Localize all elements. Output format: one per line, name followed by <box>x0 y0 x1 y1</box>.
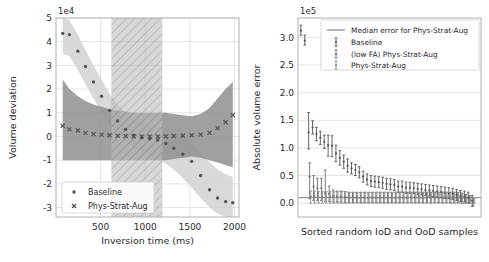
chart-graphic <box>339 157 341 159</box>
left-point-baseline <box>100 94 103 97</box>
chart-graphic <box>341 196 343 198</box>
chart-graphic <box>413 187 415 189</box>
chart-graphic <box>347 164 349 166</box>
right-ytick-label: 1.5 <box>280 115 294 125</box>
chart-graphic <box>362 176 364 178</box>
left-ytick-label: 3 <box>46 61 52 71</box>
chart-graphic <box>316 187 318 189</box>
right-ytick-label: 3.0 <box>280 33 295 43</box>
chart-graphic <box>374 181 376 183</box>
chart-graphic <box>335 41 337 43</box>
chart-graphic <box>310 195 312 197</box>
chart-graphic <box>329 196 331 198</box>
left-point-baseline <box>224 200 227 203</box>
left-chart-panel: -3-2-10123455001000150020001e4Inversion … <box>0 0 246 262</box>
chart-graphic <box>405 187 407 189</box>
chart-graphic <box>420 188 422 190</box>
chart-graphic <box>335 53 337 55</box>
chart-graphic <box>387 197 389 199</box>
chart-graphic <box>335 64 337 66</box>
chart-graphic <box>389 183 391 185</box>
chart-graphic <box>376 197 378 199</box>
chart-graphic <box>424 189 426 191</box>
left-ytick-label: -1 <box>43 155 52 165</box>
chart-graphic <box>368 197 370 199</box>
right-legend-label-3: Phys-Strat-Aug <box>351 61 406 70</box>
right-ytick-label: 0.0 <box>280 198 295 208</box>
chart-graphic <box>321 196 323 198</box>
left-point-baseline <box>199 174 202 177</box>
right-chart-svg: 0.00.51.01.52.02.53.01e5Sorted random Io… <box>246 0 489 262</box>
right-y-exponent: 1e5 <box>300 6 316 16</box>
left-point-baseline <box>156 138 159 141</box>
left-point-baseline <box>92 80 95 83</box>
left-point-baseline <box>181 153 184 156</box>
right-chart-panel: 0.00.51.01.52.02.53.01e5Sorted random Io… <box>246 0 489 262</box>
left-xtick-label: 500 <box>92 222 109 232</box>
right-ytick-label: 0.5 <box>280 171 294 181</box>
chart-graphic <box>312 185 314 187</box>
chart-graphic <box>313 195 315 197</box>
chart-graphic <box>372 197 374 199</box>
chart-graphic <box>319 137 321 139</box>
chart-graphic <box>333 196 335 198</box>
chart-graphic <box>300 30 302 32</box>
chart-graphic <box>465 198 467 200</box>
chart-graphic <box>370 180 372 182</box>
chart-graphic <box>337 196 339 198</box>
left-ytick-label: -3 <box>43 203 52 213</box>
chart-graphic <box>454 197 456 199</box>
chart-graphic <box>304 40 306 42</box>
chart-graphic <box>320 187 322 189</box>
chart-graphic <box>366 178 368 180</box>
right-ytick-label: 2.5 <box>280 60 294 70</box>
left-ytick-label: 0 <box>46 132 52 142</box>
left-point-baseline <box>76 49 79 52</box>
chart-graphic <box>430 197 432 199</box>
chart-graphic <box>358 171 360 173</box>
chart-graphic <box>450 197 452 199</box>
chart-graphic <box>352 197 354 199</box>
chart-graphic <box>385 183 387 185</box>
chart-graphic <box>401 185 403 187</box>
left-ytick-label: 4 <box>46 37 52 47</box>
left-point-baseline <box>61 32 64 35</box>
left-legend-label-phys-strat-aug: Phys-Strat-Aug <box>88 202 148 211</box>
chart-graphic <box>327 144 329 146</box>
left-y-exponent: 1e4 <box>58 6 74 16</box>
right-yaxis-label: Absolute volume error <box>251 65 262 171</box>
chart-graphic <box>360 197 362 199</box>
chart-graphic <box>409 187 411 189</box>
chart-graphic <box>442 197 444 199</box>
chart-graphic <box>391 197 393 199</box>
right-legend-label-median: Median error for Phys-Strat-Aug <box>351 26 468 35</box>
left-point-baseline <box>231 201 234 204</box>
chart-graphic <box>315 133 317 135</box>
chart-graphic <box>308 131 310 133</box>
left-yaxis-label: Volume deviation <box>7 76 18 159</box>
chart-graphic <box>335 152 337 154</box>
chart-graphic <box>411 197 413 199</box>
chart-graphic <box>393 184 395 186</box>
chart-graphic <box>364 197 366 199</box>
chart-graphic <box>397 185 399 187</box>
left-point-baseline <box>116 119 119 122</box>
left-ytick-label: 1 <box>46 108 52 118</box>
left-point-baseline <box>216 196 219 199</box>
left-point-baseline <box>84 65 87 68</box>
chart-graphic <box>349 197 351 199</box>
left-point-baseline <box>108 109 111 112</box>
legend-marker-dot-icon <box>72 190 75 193</box>
chart-graphic <box>423 197 425 199</box>
left-xtick-label: 1500 <box>178 222 201 232</box>
chart-graphic <box>354 169 356 171</box>
left-ytick-label: 2 <box>46 84 52 94</box>
chart-graphic <box>469 199 471 201</box>
chart-graphic <box>323 141 325 143</box>
chart-graphic <box>428 189 430 191</box>
left-point-baseline <box>208 188 211 191</box>
chart-graphic <box>446 197 448 199</box>
chart-graphic <box>384 197 386 199</box>
left-point-baseline <box>164 142 167 145</box>
left-ytick-label: -2 <box>43 179 52 189</box>
